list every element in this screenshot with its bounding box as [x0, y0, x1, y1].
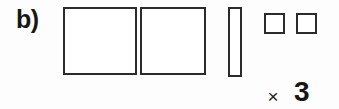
multiplication-sign-icon: ×: [262, 87, 284, 106]
large-square-1: [63, 7, 137, 75]
multiplier-value: 3: [294, 78, 310, 106]
multiplier-row: × 3: [262, 78, 324, 106]
small-square-2: [296, 13, 317, 34]
thin-vertical-rectangle: [228, 7, 242, 77]
figure-canvas: b) × 3: [0, 0, 339, 109]
figure-item-label: b): [16, 6, 39, 32]
small-square-1: [264, 13, 285, 34]
large-square-2: [140, 7, 206, 75]
